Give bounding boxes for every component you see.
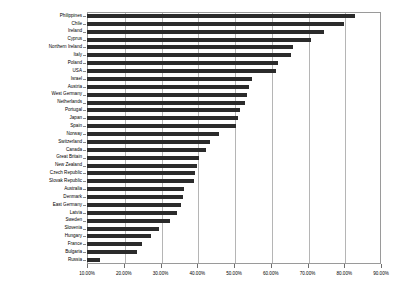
category-tick xyxy=(83,79,86,80)
category-label-row: East Germany xyxy=(0,201,85,209)
category-label: Norway xyxy=(66,132,82,137)
category-label-row: Austria xyxy=(0,83,85,91)
category-label-row: Ireland xyxy=(0,28,85,36)
bar-row xyxy=(87,51,381,59)
bar xyxy=(87,187,184,191)
category-label-row: Slovak Republic xyxy=(0,177,85,185)
category-label: East Germany xyxy=(53,203,82,208)
value-axis: 10.00%20.00%30.00%40.00%50.00%60.00%70.0… xyxy=(87,264,381,290)
category-tick xyxy=(83,16,86,17)
bar xyxy=(87,148,206,152)
category-tick xyxy=(83,63,86,64)
bar-row xyxy=(87,248,381,256)
category-tick xyxy=(83,221,86,222)
category-label: Hungary xyxy=(65,234,82,239)
category-tick xyxy=(83,32,86,33)
category-label-row: Spain xyxy=(0,122,85,130)
bar-row xyxy=(87,91,381,99)
category-label: Bulgaria xyxy=(65,250,82,255)
category-tick xyxy=(83,260,86,261)
bar xyxy=(87,22,344,26)
category-label: France xyxy=(68,242,82,247)
bar xyxy=(87,69,276,73)
category-label-row: West Germany xyxy=(0,91,85,99)
bar-row xyxy=(87,28,381,36)
category-label: Russia xyxy=(68,258,82,263)
category-label-row: Latvia xyxy=(0,209,85,217)
value-tick xyxy=(381,264,382,268)
category-tick xyxy=(83,71,86,72)
bar xyxy=(87,108,240,112)
category-label: Philippines xyxy=(60,14,82,19)
bar-row xyxy=(87,44,381,52)
bar xyxy=(87,85,249,89)
category-label: Spain xyxy=(70,124,82,129)
value-tick-label: 40.00% xyxy=(189,271,205,276)
bar xyxy=(87,250,137,254)
bar xyxy=(87,132,219,136)
value-tick-label: 50.00% xyxy=(226,271,242,276)
value-tick-label: 10.00% xyxy=(79,271,95,276)
category-tick xyxy=(83,118,86,119)
category-label: New Zealand xyxy=(55,163,82,168)
bar xyxy=(87,101,245,105)
category-tick xyxy=(83,189,86,190)
category-label-row: Poland xyxy=(0,59,85,67)
category-tick xyxy=(83,166,86,167)
bar-row xyxy=(87,240,381,248)
category-label-row: Israel xyxy=(0,75,85,83)
category-label: Denmark xyxy=(63,195,82,200)
bar-row xyxy=(87,122,381,130)
value-tick xyxy=(308,264,309,268)
category-tick xyxy=(83,103,86,104)
bar xyxy=(87,38,311,42)
bar xyxy=(87,203,181,207)
bar xyxy=(87,93,247,97)
category-label-row: Chile xyxy=(0,20,85,28)
category-label-row: Czech Republic xyxy=(0,170,85,178)
value-tick xyxy=(234,264,235,268)
category-label-row: Russia xyxy=(0,256,85,264)
category-label-row: Italy xyxy=(0,51,85,59)
category-label: Ireland xyxy=(68,29,82,34)
category-label-row: Sweden xyxy=(0,217,85,225)
category-label-row: Bulgaria xyxy=(0,248,85,256)
bar-row xyxy=(87,67,381,75)
bar xyxy=(87,30,324,34)
category-tick xyxy=(83,197,86,198)
category-label: Italy xyxy=(74,53,82,58)
bar-row xyxy=(87,130,381,138)
category-tick xyxy=(83,181,86,182)
category-label-row: Norway xyxy=(0,130,85,138)
category-tick xyxy=(83,55,86,56)
category-label-row: Cyprus xyxy=(0,36,85,44)
category-label-row: Netherlands xyxy=(0,99,85,107)
bar-series xyxy=(87,12,381,264)
category-label: Israel xyxy=(71,77,82,82)
value-tick xyxy=(271,264,272,268)
bar-row xyxy=(87,114,381,122)
category-label: Great Britain xyxy=(56,155,82,160)
bar-row xyxy=(87,185,381,193)
bar-row xyxy=(87,177,381,185)
category-tick xyxy=(83,244,86,245)
bar xyxy=(87,195,183,199)
category-label-row: France xyxy=(0,240,85,248)
category-label: Czech Republic xyxy=(50,171,82,176)
bar xyxy=(87,179,194,183)
value-tick xyxy=(87,264,88,268)
bar xyxy=(87,53,291,57)
category-label: Canada xyxy=(66,148,82,153)
bar-row xyxy=(87,20,381,28)
category-label: Switzerland xyxy=(58,140,82,145)
value-tick xyxy=(344,264,345,268)
category-tick xyxy=(83,158,86,159)
bar-row xyxy=(87,233,381,241)
value-tick-label: 20.00% xyxy=(116,271,132,276)
bar-row xyxy=(87,12,381,20)
category-label: Austria xyxy=(68,85,82,90)
bar-row xyxy=(87,59,381,67)
value-tick xyxy=(161,264,162,268)
bar-row xyxy=(87,225,381,233)
category-label-row: Philippines xyxy=(0,12,85,20)
